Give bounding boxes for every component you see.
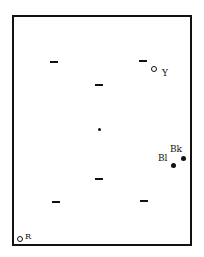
dash-mark-top-left	[50, 61, 58, 63]
marker-y-label: Y	[162, 69, 168, 78]
marker-bk-filled-circle-icon	[181, 156, 186, 161]
marker-r-open-circle-icon	[17, 236, 23, 242]
marker-bl-filled-circle-icon	[171, 163, 176, 168]
dash-mark-bottom-left	[52, 201, 60, 203]
dash-mark-upper-center	[95, 84, 103, 86]
field-frame	[12, 15, 192, 246]
marker-bl-label: Bl	[158, 154, 168, 163]
center-point	[98, 128, 101, 131]
marker-y-open-circle-icon	[151, 66, 157, 72]
dash-mark-lower-center	[95, 178, 103, 180]
dash-mark-top-right	[139, 60, 147, 62]
marker-r-label: R	[25, 232, 31, 241]
marker-bk-label: Bk	[170, 145, 182, 154]
dash-mark-bottom-right	[140, 200, 148, 202]
